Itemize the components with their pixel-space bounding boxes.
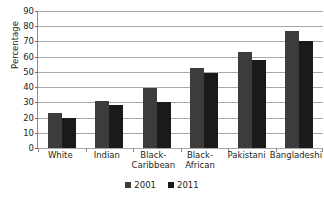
y-tick-label: 80 (0, 22, 34, 31)
x-axis-label: Black-African (177, 151, 224, 170)
bar-groups (38, 11, 323, 148)
y-tick-label: 10 (0, 129, 34, 138)
bar-2011 (62, 118, 76, 148)
x-axis-label: Pakistani (223, 151, 270, 170)
bar-2011 (252, 60, 266, 148)
x-axis-label-line: Caribbean (130, 161, 177, 171)
legend-item-2011[interactable]: 2011 (168, 181, 199, 190)
y-tick-label: 90 (0, 7, 34, 16)
bar-2001 (143, 88, 157, 148)
legend-swatch-icon (125, 182, 131, 188)
bar-group (38, 11, 86, 148)
y-tick-label: 40 (0, 83, 34, 92)
legend-label: 2001 (134, 181, 156, 190)
x-axis-label-line: African (177, 161, 224, 171)
legend-swatch-icon (168, 182, 174, 188)
y-tick-label: 20 (0, 113, 34, 122)
bar-group (86, 11, 134, 148)
x-axis-labels: WhiteIndianBlack-CaribbeanBlack-AfricanP… (37, 151, 322, 170)
chart-legend: 20012011 (0, 181, 324, 190)
bar-2001 (190, 68, 204, 148)
bar-chart: Percentage 0102030405060708090 WhiteIndi… (0, 0, 324, 198)
bar-2011 (157, 102, 171, 148)
x-axis-label: Bangladeshi (270, 151, 322, 170)
y-tick-label: 50 (0, 68, 34, 77)
x-axis-label-line: Indian (84, 151, 131, 161)
x-axis-label-line: Pakistani (223, 151, 270, 161)
x-axis-label: Black-Caribbean (130, 151, 177, 170)
bar-group (228, 11, 276, 148)
bar-2001 (238, 52, 252, 148)
bar-group (276, 11, 324, 148)
y-tick-label: 0 (0, 144, 34, 153)
bar-group (181, 11, 229, 148)
bar-group (133, 11, 181, 148)
x-axis-label: Indian (84, 151, 131, 170)
bar-2011 (299, 41, 313, 148)
y-tick-label: 70 (0, 37, 34, 46)
y-tick-label: 60 (0, 52, 34, 61)
plot-area: 0102030405060708090 (37, 11, 323, 149)
bar-2001 (48, 113, 62, 148)
y-tick-label: 30 (0, 98, 34, 107)
bar-2001 (95, 101, 109, 148)
bar-2001 (285, 31, 299, 148)
legend-item-2001[interactable]: 2001 (125, 181, 156, 190)
x-axis-label-line: Bangladeshi (270, 151, 322, 161)
bar-2011 (109, 105, 123, 148)
legend-label: 2011 (177, 181, 199, 190)
x-axis-label-line: White (37, 151, 84, 161)
x-tick-mark (322, 148, 323, 152)
x-axis-label: White (37, 151, 84, 170)
bar-2011 (204, 73, 218, 148)
